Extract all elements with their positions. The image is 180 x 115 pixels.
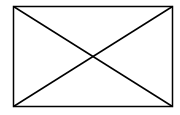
placeholder-diagram (0, 0, 180, 115)
